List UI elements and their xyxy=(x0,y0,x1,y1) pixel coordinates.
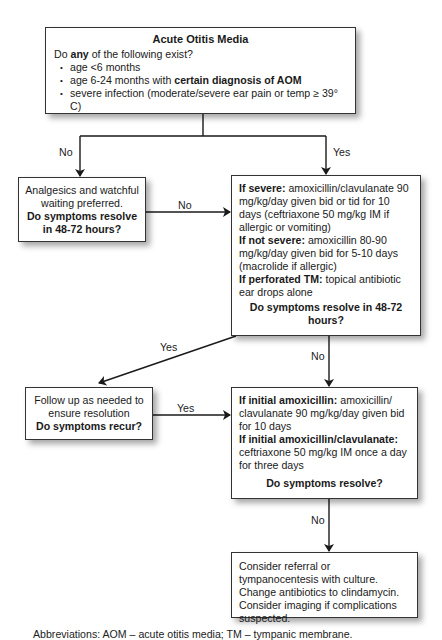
label-left-to-right-no: No xyxy=(178,199,192,211)
label-right1-no: No xyxy=(311,350,325,362)
not-severe-label: If not severe: xyxy=(239,234,305,246)
question-text: Do symptoms recur? xyxy=(36,420,142,432)
criteria-list: age <6 months age 6-24 months with certa… xyxy=(54,61,347,113)
criteria-item: age 6-24 months with certain diagnosis o… xyxy=(60,74,347,87)
node-watchful-waiting: Analgesics and watchful waiting preferre… xyxy=(18,177,146,242)
criteria-text: age <6 months xyxy=(70,61,140,73)
node-question: Do symptoms resolve in 48-72 hours? xyxy=(239,301,413,327)
node-referral: Consider referral or tympanocentesis wit… xyxy=(231,552,418,618)
label-top-no: No xyxy=(59,146,73,158)
node-text: Consider referral or tympanocentesis wit… xyxy=(239,560,410,625)
question-prefix: Do xyxy=(54,48,71,60)
abbreviations-footnote: Abbreviations: AOM – acute otitis media;… xyxy=(33,628,353,640)
question-emphasis: any xyxy=(71,48,89,60)
node-follow-up: Follow up as needed to ensure resolution… xyxy=(25,387,153,440)
label-top-yes: Yes xyxy=(333,146,350,158)
criteria-item: age <6 months xyxy=(60,61,347,74)
node-question: Do symptoms resolve in 48-72 hours? xyxy=(23,210,141,236)
criteria-text: age 6-24 months with xyxy=(70,74,174,86)
initial-amox-instruction: If initial amoxicillin: amoxicillin/ cla… xyxy=(239,394,410,433)
node-text: Analgesics and watchful waiting preferre… xyxy=(23,184,141,210)
criteria-item: severe infection (moderate/severe ear pa… xyxy=(60,87,347,113)
node-text: Follow up as needed to ensure resolution xyxy=(30,394,148,420)
perforated-label: If perforated TM: xyxy=(239,273,323,285)
initial-amoxclav-instruction: If initial amoxicillin/clavulanate: ceft… xyxy=(239,433,410,472)
question-text: Do symptoms resolve in 48-72 hours? xyxy=(27,210,137,235)
node-second-line-treatment: If initial amoxicillin: amoxicillin/ cla… xyxy=(231,387,418,499)
label-right1-yes: Yes xyxy=(160,341,177,353)
initial-amoxclav-label: If initial amoxicillin/clavulanate: xyxy=(239,433,398,445)
perforated-instruction: If perforated TM: topical antibiotic ear… xyxy=(239,273,413,299)
label-followup-yes: Yes xyxy=(177,402,194,414)
question-suffix: of the following exist? xyxy=(89,48,193,60)
node-initial-treatment: If severe: amoxicillin/clavulanate 90 mg… xyxy=(231,175,421,336)
node-acute-otitis-media: Acute Otitis Media Do any of the followi… xyxy=(45,27,356,114)
node-question: Do any of the following exist? xyxy=(54,48,347,61)
severe-instruction: If severe: amoxicillin/clavulanate 90 mg… xyxy=(239,182,413,234)
node-question: Do symptoms resolve? xyxy=(239,477,410,490)
node-question: Do symptoms recur? xyxy=(30,420,148,433)
initial-amox-label: If initial amoxicillin: xyxy=(239,394,337,406)
criteria-text: severe infection (moderate/severe ear pa… xyxy=(70,87,338,112)
not-severe-instruction: If not severe: amoxicillin 80-90 mg/kg/d… xyxy=(239,234,413,273)
initial-amoxclav-text: ceftriaxone 50 mg/kg IM once a day for t… xyxy=(239,446,407,471)
criteria-emphasis: certain diagnosis of AOM xyxy=(174,74,301,86)
severe-label: If severe: xyxy=(239,182,286,194)
node-title: Acute Otitis Media xyxy=(54,33,347,46)
label-right2-no: No xyxy=(311,514,325,526)
